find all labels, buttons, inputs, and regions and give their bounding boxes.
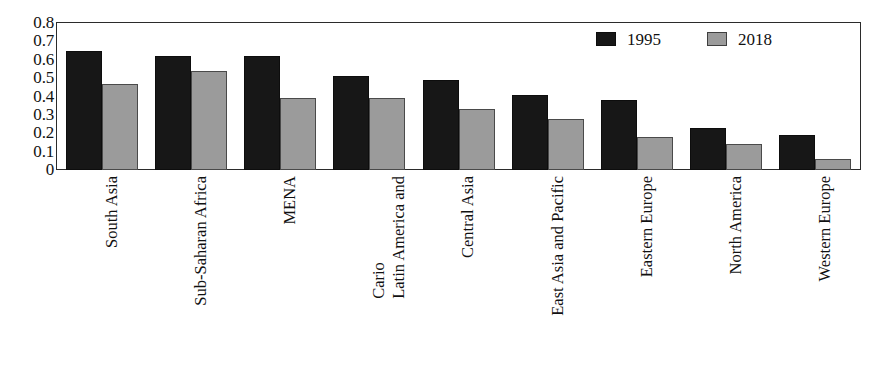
bar-group [779, 23, 851, 170]
x-axis-category-label-line: South Asia [102, 176, 122, 248]
y-axis-tick-label: 0.7 [10, 32, 54, 49]
y-axis-tick-labels: 0.80.70.60.50.40.30.20.10 [10, 12, 54, 176]
x-axis-category-label: North America [682, 172, 771, 368]
x-axis-category-label-rotated: South Asia [102, 176, 122, 248]
x-axis-category-label: Western Europe [771, 172, 860, 368]
bar-group [512, 23, 584, 170]
x-axis-category-label: Sub-Saharan Africa [146, 172, 235, 368]
x-axis-category-label: Latin America andCario [325, 172, 414, 368]
gray-square-swatch [707, 32, 727, 46]
y-axis-tick-label: 0.8 [10, 14, 54, 31]
x-axis-category-label: South Asia [57, 172, 146, 368]
bar-2018 [459, 109, 495, 170]
x-axis-category-label-line: Sub-Saharan Africa [191, 176, 211, 306]
bar-chart-figure: 0.80.70.60.50.40.30.20.10 19952018 South… [0, 0, 876, 371]
bar-2018 [280, 98, 316, 170]
bar-2018 [102, 84, 138, 170]
x-axis-category-labels: South AsiaSub-Saharan AfricaMENALatin Am… [57, 172, 860, 368]
x-axis-category-label-line: Western Europe [815, 176, 835, 281]
y-axis-tick-label: 0.2 [10, 124, 54, 141]
bar-2018 [815, 159, 851, 170]
x-axis-category-label-line: Central Asia [458, 176, 478, 258]
bar-1995 [690, 128, 726, 170]
bar-1995 [423, 80, 459, 170]
bar-group [423, 23, 495, 170]
legend-label: 2018 [738, 31, 772, 48]
bar-2018 [637, 137, 673, 170]
bar-1995 [155, 56, 191, 170]
bar-2018 [369, 98, 405, 170]
bar-1995 [333, 76, 369, 170]
x-axis-category-label-rotated: East Asia and Pacific [548, 176, 568, 316]
legend-entry-1995: 1995 [596, 31, 661, 48]
bar-1995 [66, 51, 102, 170]
x-axis-category-label: Eastern Europe [592, 172, 681, 368]
x-axis-category-label-rotated: MENA [280, 176, 300, 225]
x-axis-category-label: Central Asia [414, 172, 503, 368]
bar-1995 [601, 100, 637, 170]
x-axis-category-label-line: Cario [369, 262, 389, 299]
bar-1995 [779, 135, 815, 170]
legend-entry-2018: 2018 [707, 31, 772, 48]
bar-1995 [512, 95, 548, 170]
x-axis-category-label-rotated: Eastern Europe [637, 176, 657, 277]
y-axis-tick-label: 0.3 [10, 106, 54, 123]
x-axis-category-label-line: East Asia and Pacific [548, 176, 568, 316]
legend-label: 1995 [627, 31, 661, 48]
x-axis-category-label: MENA [235, 172, 324, 368]
x-axis-category-label: East Asia and Pacific [503, 172, 592, 368]
x-axis-category-label-line: MENA [280, 176, 300, 225]
x-axis-category-label-line: Latin America and [389, 176, 409, 299]
x-axis-category-label-rotated: Sub-Saharan Africa [191, 176, 211, 306]
bar-group [333, 23, 405, 170]
y-axis-tick-label: 0.1 [10, 143, 54, 160]
chart-legend: 19952018 [596, 28, 772, 50]
x-axis-category-label-line: North America [726, 176, 746, 275]
y-axis-tick-label: 0 [10, 161, 54, 178]
black-square-swatch [596, 32, 616, 46]
y-axis-tick-label: 0.6 [10, 51, 54, 68]
x-axis-category-label-rotated: Central Asia [458, 176, 478, 258]
x-axis-category-label-rotated: Latin America andCario [369, 176, 409, 299]
x-axis-category-label-rotated: North America [726, 176, 746, 275]
y-axis-tick-label: 0.5 [10, 69, 54, 86]
bar-2018 [191, 71, 227, 170]
bar-group [244, 23, 316, 170]
bar-2018 [548, 119, 584, 170]
bar-group [66, 23, 138, 170]
bar-1995 [244, 56, 280, 170]
y-axis-tick-label: 0.4 [10, 88, 54, 105]
x-axis-category-label-line: Eastern Europe [637, 176, 657, 277]
bar-group [155, 23, 227, 170]
bar-2018 [726, 144, 762, 170]
x-axis-category-label-rotated: Western Europe [815, 176, 835, 281]
